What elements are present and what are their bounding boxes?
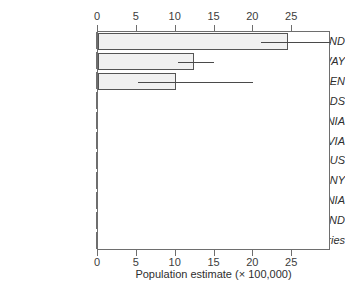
top-axis-tick-label: 25	[279, 10, 303, 22]
category-axis-stub	[96, 92, 97, 109]
category-axis-stub	[96, 72, 97, 89]
top-axis-tick-label: 10	[163, 10, 187, 22]
x-axis-title: Population estimate (× 100,000)	[97, 268, 330, 280]
top-axis-tick-label: 20	[240, 10, 264, 22]
error-bar	[178, 62, 215, 63]
category-axis-stub	[96, 192, 97, 209]
category-axis-stub	[96, 132, 97, 149]
top-axis-tick-label: 15	[202, 10, 226, 22]
bottom-axis-tick-label: 10	[163, 256, 187, 268]
bottom-axis-tick-label: 5	[124, 256, 148, 268]
top-axis-tick-label: 5	[124, 10, 148, 22]
plot-area	[97, 31, 330, 250]
bottom-axis-tick-label: 20	[240, 256, 264, 268]
category-axis-stub	[96, 232, 97, 249]
bottom-axis-tick-label: 0	[85, 256, 109, 268]
category-axis-stub	[96, 52, 97, 69]
error-bar	[138, 82, 253, 83]
bottom-axis-tick-label: 15	[202, 256, 226, 268]
chart-figure: FINLANDNORWAYSWEDENNETHERLANDSESTONIALAT…	[0, 0, 345, 288]
bar	[98, 33, 288, 50]
category-axis-stub	[96, 212, 97, 229]
category-axis-stub	[96, 112, 97, 129]
category-axis-stub	[96, 152, 97, 169]
error-bar	[261, 42, 331, 43]
bottom-axis-tick-label: 25	[279, 256, 303, 268]
category-axis-stub	[96, 32, 97, 49]
top-axis-tick-label: 0	[85, 10, 109, 22]
category-axis-stub	[96, 172, 97, 189]
